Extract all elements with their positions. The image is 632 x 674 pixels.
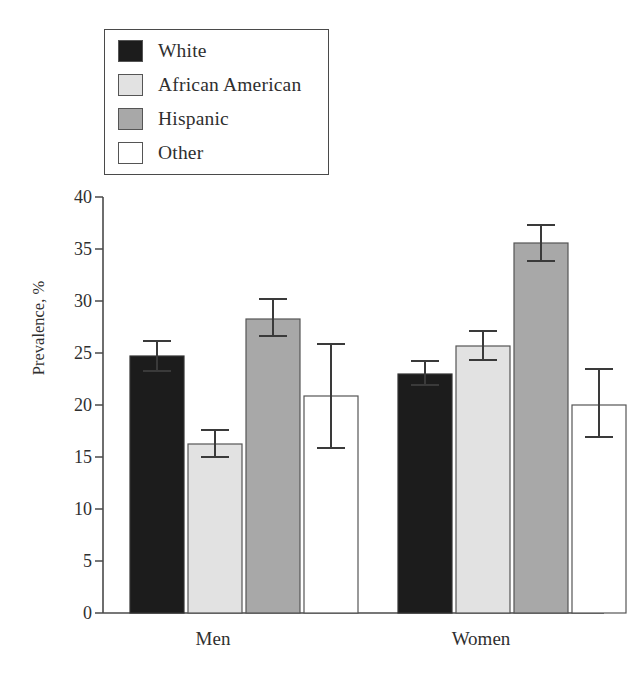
bar-chart-figure: White African American Hispanic Other Pr… (0, 0, 632, 674)
y-axis-ticks (95, 197, 103, 613)
bar-women-hispanic (514, 243, 568, 613)
plot-area (0, 0, 632, 674)
bar-men-white (130, 356, 184, 613)
bar-men-african-american (188, 444, 242, 613)
bar-women-white (398, 374, 452, 613)
bar-men-hispanic (246, 319, 300, 613)
bar-women-african-american (456, 346, 510, 613)
